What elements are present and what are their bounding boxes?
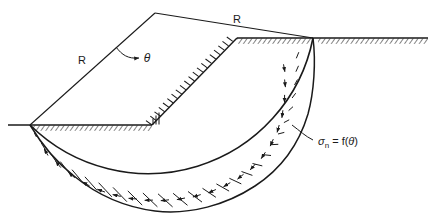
label-radius-top: R [233,13,241,25]
radius-lines [30,13,313,125]
label-sigma-equals: = f( [329,135,349,147]
label-angle-theta: θ [144,51,151,65]
slope-face [146,37,237,125]
radius-line-left [30,13,155,125]
angle-theta-indicator [116,47,139,58]
ground-surface-right [237,38,428,44]
label-radius-left: R [78,54,86,66]
sigma-leader-line [292,125,313,140]
ground-surface-left [8,125,152,131]
slope-stability-figure: R R θ σn = f(θ) [0,0,428,222]
svg-text:σn = f(θ): σn = f(θ) [318,135,358,150]
figure-canvas: R R θ σn = f(θ) [0,0,428,222]
label-normal-stress: σn = f(θ) [318,135,358,150]
label-sigma-close: ) [354,135,358,147]
